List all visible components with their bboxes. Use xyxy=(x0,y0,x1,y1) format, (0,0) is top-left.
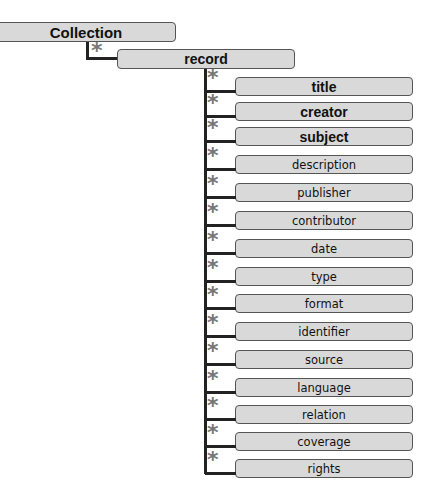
element-label: subject xyxy=(299,129,348,145)
element-node-coverage: coverage xyxy=(235,432,413,451)
cardinality-star-icon: * xyxy=(91,40,103,62)
cardinality-star-icon: * xyxy=(207,145,219,167)
record-label: record xyxy=(184,51,228,67)
element-node-language: language xyxy=(235,378,413,397)
element-node-description: description xyxy=(235,155,413,174)
cardinality-star-icon: * xyxy=(207,67,219,89)
element-label: rights xyxy=(307,462,340,476)
element-label: language xyxy=(297,381,351,395)
element-label: coverage xyxy=(297,435,350,449)
element-node-identifier: identifier xyxy=(235,322,413,341)
element-node-subject: subject xyxy=(235,127,413,146)
cardinality-star-icon: * xyxy=(207,395,219,417)
element-node-format: format xyxy=(235,294,413,313)
record-node: record xyxy=(117,49,295,69)
cardinality-star-icon: * xyxy=(207,229,219,251)
element-label: description xyxy=(292,158,356,172)
element-label: creator xyxy=(300,104,347,120)
element-label: publisher xyxy=(297,186,350,200)
cardinality-star-icon: * xyxy=(207,201,219,223)
element-label: source xyxy=(305,353,343,367)
element-label: date xyxy=(311,242,337,256)
cardinality-star-icon: * xyxy=(207,284,219,306)
element-node-relation: relation xyxy=(235,405,413,424)
collection-node: Collection xyxy=(0,22,176,42)
cardinality-star-icon: * xyxy=(207,449,219,471)
cardinality-star-icon: * xyxy=(207,257,219,279)
element-label: contributor xyxy=(292,214,356,228)
cardinality-star-icon: * xyxy=(207,422,219,444)
element-node-rights: rights xyxy=(235,459,413,478)
element-label: type xyxy=(311,270,337,284)
cardinality-star-icon: * xyxy=(207,340,219,362)
element-node-title: title xyxy=(235,77,413,96)
element-label: identifier xyxy=(298,325,350,339)
cardinality-star-icon: * xyxy=(207,173,219,195)
element-node-source: source xyxy=(235,350,413,369)
element-node-date: date xyxy=(235,239,413,258)
cardinality-star-icon: * xyxy=(207,117,219,139)
element-node-type: type xyxy=(235,267,413,286)
collection-label: Collection xyxy=(50,24,123,41)
element-node-creator: creator xyxy=(235,102,413,121)
element-label: relation xyxy=(302,408,346,422)
element-label: title xyxy=(312,79,337,95)
cardinality-star-icon: * xyxy=(207,368,219,390)
element-label: format xyxy=(305,297,343,311)
branch-line xyxy=(205,472,236,475)
element-node-publisher: publisher xyxy=(235,183,413,202)
element-node-contributor: contributor xyxy=(235,211,413,230)
cardinality-star-icon: * xyxy=(207,92,219,114)
cardinality-star-icon: * xyxy=(207,312,219,334)
